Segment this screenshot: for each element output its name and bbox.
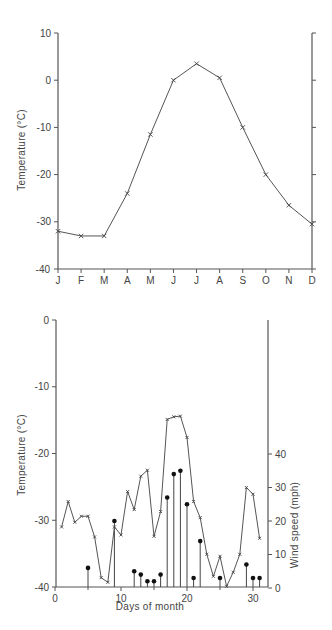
y-tick-label: -30	[35, 515, 50, 526]
x-tick-label: 0	[52, 593, 58, 604]
monthly-temperature-line	[58, 64, 312, 236]
x-tick-label-month: M	[146, 275, 154, 286]
wind-dot	[251, 576, 256, 581]
figure: 100-10-20-30-40 JFMAMJJASOND Temperature…	[0, 0, 332, 630]
y-tick-label: 0	[43, 315, 49, 326]
y-tick-label: -10	[37, 122, 52, 133]
right-y-tick-label: 40	[275, 449, 287, 460]
y-tick-label: -40	[35, 582, 50, 593]
x-marker	[148, 132, 152, 136]
daily-temperature-line	[62, 416, 260, 586]
wind-dot	[257, 576, 262, 581]
x-marker	[125, 191, 129, 195]
wind-speed-stems	[86, 468, 262, 587]
bottom-chart-left-y-ticks: 0-10-20-30-40	[35, 315, 56, 593]
wind-dot	[139, 572, 144, 577]
wind-dot	[218, 576, 223, 581]
x-tick-label-month: F	[78, 275, 84, 286]
top-chart-axes	[58, 33, 312, 269]
x-marker	[217, 76, 221, 80]
x-tick-label-month: J	[171, 275, 176, 286]
monthly-temperature-chart: 100-10-20-30-40 JFMAMJJASOND Temperature…	[16, 28, 316, 287]
right-y-tick-label: 10	[275, 549, 287, 560]
wind-dot	[132, 569, 137, 574]
top-chart-y-ticks: 100-10-20-30-40	[36, 28, 316, 275]
x-tick-label-month: O	[262, 275, 270, 286]
y-tick-label: -10	[35, 381, 50, 392]
wind-dot	[145, 579, 150, 584]
wind-dot	[165, 495, 170, 500]
right-y-tick-label: 0	[275, 583, 281, 594]
bottom-chart-right-y-axis-label: Wind speed (mph)	[289, 482, 300, 569]
wind-dot	[152, 579, 157, 584]
x-tick-label-month: J	[56, 275, 61, 286]
top-chart-temperature-series	[56, 61, 314, 238]
y-tick-label: -20	[35, 448, 50, 459]
x-tick-label-month: D	[308, 275, 315, 286]
wind-dot	[172, 472, 177, 477]
right-y-tick-label: 30	[275, 482, 287, 493]
y-tick-label: 0	[45, 75, 51, 86]
wind-dot	[178, 468, 183, 473]
y-tick-label: 10	[40, 28, 52, 39]
x-marker	[264, 172, 268, 176]
wind-dot	[191, 576, 196, 581]
x-tick-label-month: J	[194, 275, 199, 286]
x-tick-label-month: A	[124, 275, 131, 286]
bottom-chart-x-axis-label: Days of month	[116, 601, 184, 612]
bottom-chart-y-axis-label: Temperature (°C)	[16, 414, 27, 496]
x-marker	[287, 203, 291, 207]
right-y-tick-label: 20	[275, 516, 287, 527]
y-tick-label: -30	[37, 216, 52, 227]
x-marker	[171, 78, 175, 82]
x-marker	[194, 61, 198, 65]
x-tick-label-month: A	[216, 275, 223, 286]
wind-dot	[112, 519, 117, 524]
x-tick-label-month: M	[100, 275, 108, 286]
bottom-chart-axes	[56, 320, 268, 587]
wind-dot	[198, 539, 203, 544]
top-chart-y-axis-label: Temperature (°C)	[16, 109, 27, 191]
wind-dot	[86, 566, 91, 571]
wind-dot	[185, 502, 190, 507]
x-tick-label-month: S	[239, 275, 246, 286]
wind-dot	[244, 562, 249, 567]
y-tick-label: -20	[37, 169, 52, 180]
wind-dot	[158, 572, 163, 577]
bottom-chart-right-y-ticks: 010203040	[268, 449, 287, 594]
x-tick-label-month: N	[285, 275, 292, 286]
daily-temperature-series	[60, 415, 261, 588]
x-marker	[241, 125, 245, 129]
top-chart-x-ticks: JFMAMJJASOND	[56, 269, 316, 286]
x-tick-label: 30	[247, 593, 259, 604]
y-tick-label: -40	[36, 264, 51, 275]
daily-temperature-wind-chart: 0-10-20-30-40 010203040 0102030 Temperat…	[16, 315, 300, 613]
